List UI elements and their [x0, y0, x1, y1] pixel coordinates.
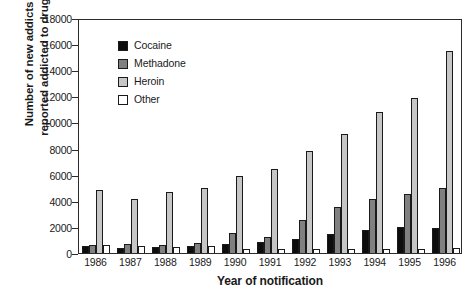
- y-axis-tick-mark: [72, 176, 78, 177]
- y-axis-tick-mark: [72, 228, 78, 229]
- y-axis-tick-label: 16000: [26, 40, 72, 50]
- bar-methadone-1989: [194, 243, 201, 253]
- bar-group: [184, 20, 219, 253]
- bar-methadone-1994: [369, 199, 376, 253]
- y-axis-tick-label: 4000: [26, 197, 72, 207]
- legend-label: Methadone: [134, 58, 186, 69]
- bar-heroin-1990: [236, 176, 243, 253]
- x-axis-tick-label: 1991: [259, 256, 282, 268]
- bar-other-1988: [173, 247, 180, 253]
- bar-heroin-1996: [446, 51, 453, 253]
- y-axis-tick-mark: [72, 254, 78, 255]
- x-axis-tick-label: 1996: [433, 256, 456, 268]
- x-axis-title: Year of notification: [78, 274, 462, 288]
- y-axis-tick-mark: [72, 123, 78, 124]
- x-axis-tick-label: 1987: [119, 256, 142, 268]
- bar-methadone-1992: [299, 220, 306, 253]
- bar-cocaine-1994: [362, 230, 369, 254]
- bar-cocaine-1991: [257, 242, 264, 253]
- bar-group: [219, 20, 254, 253]
- x-axis-tick-label: 1986: [84, 256, 107, 268]
- bar-other-1986: [103, 245, 110, 253]
- x-axis-tick-label: 1992: [294, 256, 317, 268]
- bar-heroin-1994: [376, 112, 383, 253]
- bar-heroin-1992: [306, 151, 313, 253]
- x-axis-tick-label: 1989: [189, 256, 212, 268]
- y-axis-tick-label: 8000: [26, 145, 72, 155]
- y-axis-tick-label: 0: [26, 249, 72, 259]
- x-axis-tick-label: 1994: [363, 256, 386, 268]
- bar-heroin-1989: [201, 188, 208, 253]
- y-axis-tick-label: 6000: [26, 171, 72, 181]
- bar-methadone-1996: [439, 188, 446, 253]
- bar-cocaine-1988: [152, 247, 159, 253]
- bar-group: [428, 20, 463, 253]
- y-axis-tick-mark: [72, 71, 78, 72]
- bar-cocaine-1990: [222, 244, 229, 253]
- y-axis-tick-mark: [72, 45, 78, 46]
- legend-item-heroin: Heroin: [118, 76, 186, 87]
- legend-item-other: Other: [118, 94, 186, 105]
- y-axis-tick-mark: [72, 150, 78, 151]
- bar-cocaine-1987: [117, 248, 124, 253]
- x-axis-tick-label: 1988: [154, 256, 177, 268]
- bar-methadone-1990: [229, 233, 236, 253]
- legend-swatch-icon-heroin: [118, 77, 128, 87]
- bar-other-1993: [348, 249, 355, 253]
- y-axis-tick-mark: [72, 19, 78, 20]
- legend-label: Heroin: [134, 76, 164, 87]
- bar-other-1989: [208, 246, 215, 253]
- y-axis-tick-label: 12000: [26, 92, 72, 102]
- legend-label: Other: [134, 94, 160, 105]
- x-axis-tick-label: 1995: [398, 256, 421, 268]
- y-axis-tick-mark: [72, 202, 78, 203]
- legend-item-methadone: Methadone: [118, 58, 186, 69]
- bar-group: [358, 20, 393, 253]
- bar-group: [79, 20, 114, 253]
- y-axis-tick-mark: [72, 97, 78, 98]
- chart-legend: CocaineMethadoneHeroinOther: [118, 40, 186, 105]
- bar-other-1996: [453, 248, 460, 253]
- bar-methadone-1988: [159, 245, 166, 253]
- bar-cocaine-1986: [82, 246, 89, 253]
- bar-cocaine-1995: [397, 227, 404, 253]
- bar-methadone-1993: [334, 207, 341, 253]
- bar-heroin-1991: [271, 169, 278, 253]
- bar-methadone-1986: [89, 245, 96, 253]
- x-axis-tick-label: 1990: [224, 256, 247, 268]
- bar-heroin-1987: [131, 199, 138, 253]
- bar-cocaine-1989: [187, 246, 194, 253]
- x-axis-tick-labels: 1986198719881989199019911992199319941995…: [78, 256, 462, 272]
- y-axis-tick-label: 14000: [26, 66, 72, 76]
- bar-heroin-1993: [341, 134, 348, 253]
- bar-other-1990: [243, 249, 250, 253]
- bar-heroin-1988: [166, 192, 173, 253]
- bar-cocaine-1996: [432, 228, 439, 253]
- legend-label: Cocaine: [134, 40, 172, 51]
- bar-group: [288, 20, 323, 253]
- bar-cocaine-1993: [327, 234, 334, 253]
- bar-heroin-1986: [96, 190, 103, 253]
- legend-swatch-icon-other: [118, 95, 128, 105]
- bar-other-1992: [313, 249, 320, 253]
- bar-group: [254, 20, 289, 253]
- bar-methadone-1991: [264, 237, 271, 253]
- bar-other-1987: [138, 246, 145, 253]
- bar-cocaine-1992: [292, 239, 299, 253]
- bar-group: [323, 20, 358, 253]
- y-axis-tick-label: 10000: [26, 118, 72, 128]
- bar-heroin-1995: [411, 98, 418, 253]
- bar-other-1991: [278, 249, 285, 253]
- y-axis-tick-labels: 0200040006000800010000120001400016000180…: [24, 0, 72, 297]
- legend-swatch-icon-cocaine: [118, 41, 128, 51]
- bar-methadone-1987: [124, 244, 131, 253]
- bar-other-1995: [418, 249, 425, 253]
- legend-swatch-icon-methadone: [118, 59, 128, 69]
- bar-chart-figure: Number of new addicts reported addicted …: [0, 0, 474, 297]
- y-axis-tick-label: 2000: [26, 223, 72, 233]
- legend-item-cocaine: Cocaine: [118, 40, 186, 51]
- bar-group: [393, 20, 428, 253]
- bar-methadone-1995: [404, 194, 411, 253]
- y-axis-tick-label: 18000: [26, 14, 72, 24]
- x-axis-tick-label: 1993: [329, 256, 352, 268]
